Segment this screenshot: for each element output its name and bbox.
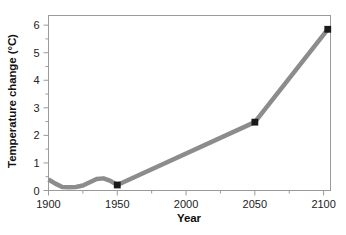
- chart-figure: Temperature change (°C) 0123456 19001950…: [0, 0, 346, 235]
- data-point-marker: [251, 119, 258, 126]
- data-point-marker: [114, 182, 121, 189]
- y-tick-label: 1: [33, 157, 39, 169]
- x-axis-tick-labels: 19001950200020502100: [36, 198, 336, 210]
- y-tick-label: 5: [33, 47, 39, 59]
- data-point-marker: [324, 26, 331, 33]
- y-tick-label: 4: [33, 74, 39, 86]
- y-tick-label: 3: [33, 102, 39, 114]
- x-tick-label: 2050: [243, 198, 267, 210]
- x-tick-label: 2100: [311, 198, 335, 210]
- y-tick-label: 2: [33, 129, 39, 141]
- y-axis-tick-labels: 0123456: [33, 19, 39, 196]
- x-tick-label: 1950: [105, 198, 129, 210]
- x-axis-major-ticks: [49, 191, 324, 196]
- line-chart-plot: 0123456 19001950200020502100: [0, 0, 346, 235]
- x-tick-label: 1900: [36, 198, 60, 210]
- x-tick-label: 2000: [174, 198, 198, 210]
- plot-frame: [49, 16, 331, 191]
- y-tick-label: 0: [33, 185, 39, 197]
- y-tick-label: 6: [33, 19, 39, 31]
- y-axis-major-ticks: [44, 25, 49, 190]
- x-axis-label: Year: [48, 212, 330, 224]
